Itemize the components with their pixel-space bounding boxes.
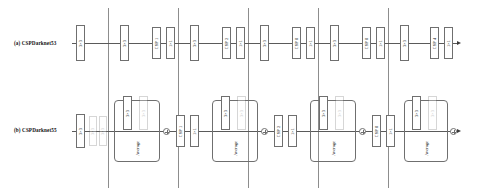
block-3x3: 3×3: [400, 25, 409, 61]
block-1x1: 1×1: [236, 27, 245, 59]
block-3x3: 3×3: [76, 114, 85, 148]
merge-node-plus: [359, 128, 366, 135]
block-csp: CSP 1: [152, 27, 161, 59]
stage-separator-2: [178, 8, 179, 188]
block-3x3: 3×3: [99, 116, 107, 146]
block-3x3: 3×3: [190, 25, 199, 61]
stage-separator-1: [108, 8, 109, 188]
row-b-arrowhead: [457, 129, 461, 133]
block-1x1: 1×1: [376, 27, 385, 59]
merge-node-plus: [163, 128, 170, 135]
average-branch-3x3: 3×3: [139, 96, 148, 130]
block-csp: CSP 8: [292, 27, 301, 59]
average-branch-3x3: 3×3: [412, 96, 421, 130]
average-branch-3x3: 3×3: [319, 96, 328, 130]
average-label: Average: [331, 125, 336, 173]
average-label: Average: [424, 126, 429, 172]
block-1x1: 1×1: [288, 115, 297, 147]
block-csp: CSP 2: [222, 27, 231, 59]
block-3x3: 3×3: [260, 25, 269, 61]
merge-node-plus: [261, 128, 268, 135]
block-1x1: 1×1: [166, 27, 175, 59]
block-1x1: 1×1: [190, 115, 199, 147]
average-label: Average: [233, 125, 238, 173]
average-branch-3x3: 3×3: [123, 96, 132, 130]
architecture-figure: (a) CSPDarknet53 3×3 3×3 CSP 1 1×1 3×3 C…: [0, 0, 480, 195]
block-csp: CSP 1: [176, 115, 185, 147]
average-branch-3x3: 3×3: [237, 96, 246, 130]
block-1x1: 1×1: [306, 27, 315, 59]
block-3x3: 3×3: [330, 25, 339, 61]
row-b-label: (b) CSPDarknet55: [14, 127, 57, 133]
average-branch-3x3: 3×3: [335, 96, 344, 130]
stage-separator-5: [388, 8, 389, 188]
block-1x1: 1×1: [444, 27, 453, 59]
row-a-label: (a) CSPDarknet53: [14, 40, 56, 46]
block-3x3: 3×3: [76, 25, 85, 61]
block-csp: CSP 8: [362, 27, 371, 59]
block-1x1: 1×1: [386, 115, 395, 147]
average-branch-3x3: 3×3: [221, 96, 230, 130]
block-3x3: 3×3: [89, 116, 97, 146]
block-csp: CSP 8: [372, 115, 381, 147]
average-label: Average: [135, 125, 140, 173]
block-csp: CSP 2: [274, 115, 283, 147]
block-3x3: 3×3: [120, 25, 129, 61]
block-csp: CSP 4: [430, 27, 439, 59]
row-a-arrowhead: [457, 41, 461, 45]
